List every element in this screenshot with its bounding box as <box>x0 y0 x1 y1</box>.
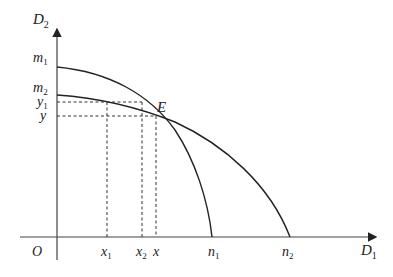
intersection-label-e: E <box>156 99 166 115</box>
tick-x2: x2 <box>135 244 147 261</box>
y-axis-label: D2 <box>32 11 49 30</box>
origin-label: O <box>32 244 42 259</box>
tick-n2: n2 <box>282 244 294 261</box>
tick-y: y <box>38 108 47 123</box>
diagram-canvas: D2 D1 O m1 m2 y1 y x1 x2 x n1 n2 E <box>0 0 393 277</box>
ppf-diagram: D2 D1 O m1 m2 y1 y x1 x2 x n1 n2 E <box>0 0 393 277</box>
tick-x: x <box>152 244 160 259</box>
tick-n1: n1 <box>208 244 220 261</box>
x-axis-label: D1 <box>360 242 377 261</box>
tick-m1: m1 <box>33 50 48 67</box>
curve-m1-n1 <box>57 67 212 237</box>
tick-x1: x1 <box>100 244 112 261</box>
